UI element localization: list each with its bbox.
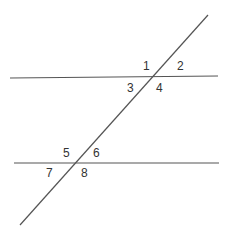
upper-parallel-line <box>10 76 218 78</box>
angle-label-2: 2 <box>177 59 184 73</box>
angle-label-7: 7 <box>46 166 53 180</box>
transversal-line <box>20 15 208 225</box>
angle-label-6: 6 <box>93 146 100 160</box>
parallel-lines-diagram: 1 2 3 4 5 6 7 8 <box>0 0 228 234</box>
angle-label-1: 1 <box>143 59 150 73</box>
angle-label-5: 5 <box>63 146 70 160</box>
angle-label-4: 4 <box>156 81 163 95</box>
angle-label-8: 8 <box>81 166 88 180</box>
angle-label-3: 3 <box>127 81 134 95</box>
